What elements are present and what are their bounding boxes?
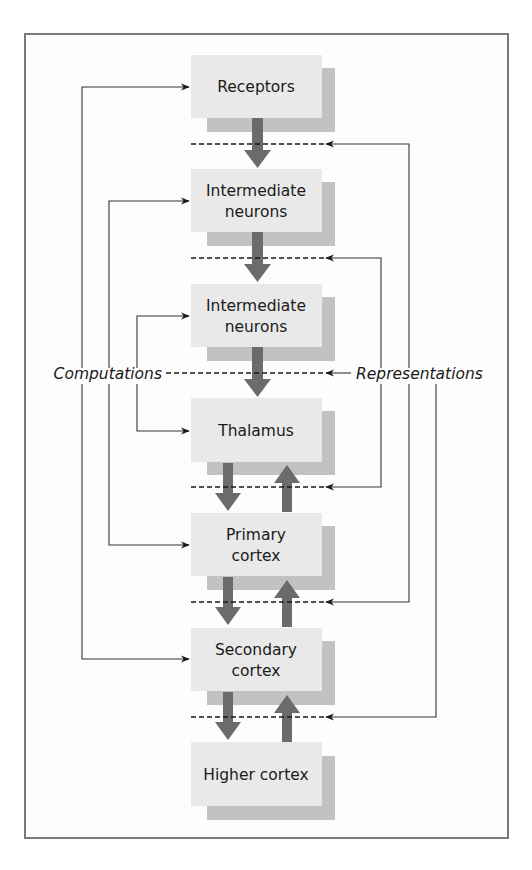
computations-label: Computations [54,365,162,383]
box-label-line1: Secondary [215,641,297,659]
box-body [191,284,322,347]
box-body [191,513,322,576]
representation-connectors [326,144,436,717]
connector-arrow-right-icon [82,87,189,368]
connector-arrow-right-icon [137,316,189,368]
box-higher-cortex: Higher cortex [191,742,335,820]
representations-label: Representations [356,365,483,383]
box-label-line1: Intermediate [206,182,306,200]
box-body [191,169,322,232]
box-label-line2: cortex [232,662,281,680]
connector-arrow-right-icon [109,384,189,545]
box-label: Higher cortex [203,766,308,784]
box-label: Thalamus [217,422,294,440]
box-body [191,628,322,691]
box-label-line2: cortex [232,547,281,565]
box-label-line2: neurons [225,318,288,336]
box-label-line1: Intermediate [206,297,306,315]
box-thalamus: Thalamus [191,398,335,475]
connector-arrow-right-icon [137,384,189,431]
box-secondary-cortex: Secondary cortex [191,628,335,705]
box-primary-cortex: Primary cortex [191,513,335,590]
box-label: Receptors [217,78,295,96]
connector-arrow-right-icon [109,201,189,368]
connector-arrow-right-icon [82,384,189,659]
connector-arrow-left-icon [326,144,409,368]
connector-arrow-left-icon [326,384,409,602]
diagram-canvas: Receptors Intermediate neurons Intermedi… [0,0,532,870]
box-label-line1: Primary [226,526,286,544]
box-label-line2: neurons [225,203,288,221]
